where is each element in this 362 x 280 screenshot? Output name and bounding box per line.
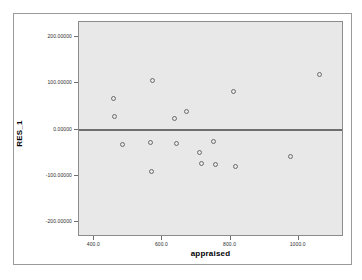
x-axis-tick-label: 600.0 (155, 241, 168, 247)
data-point[interactable] (231, 89, 236, 94)
y-axis: 200.00000100.000000.00000-100.00000-200.… (14, 21, 78, 236)
data-point[interactable] (317, 72, 322, 77)
x-axis-title: appraised (78, 249, 343, 258)
data-point[interactable] (120, 142, 125, 147)
x-axis-tick (230, 236, 231, 240)
data-point[interactable] (199, 161, 204, 166)
y-axis-tick-label: -100.00000 (46, 172, 72, 178)
data-point[interactable] (197, 150, 202, 155)
data-point[interactable] (288, 154, 293, 159)
plot-area[interactable] (78, 21, 343, 236)
zero-reference-line (79, 129, 342, 131)
y-axis-tick-label: -200.00000 (46, 218, 72, 224)
x-axis-tick-label: 800.0 (223, 241, 236, 247)
data-point[interactable] (211, 139, 216, 144)
x-axis-tick-label: 400.0 (87, 241, 100, 247)
data-point[interactable] (149, 169, 154, 174)
y-axis-tick-label: 100.00000 (47, 79, 72, 85)
spss-output-viewer: RES_1 200.00000100.000000.00000-100.0000… (0, 0, 362, 280)
data-point[interactable] (233, 164, 238, 169)
data-point[interactable] (213, 162, 218, 167)
x-axis-tick (298, 236, 299, 240)
data-point[interactable] (111, 96, 116, 101)
data-point[interactable] (148, 140, 153, 145)
x-axis-tick-label: 1000.0 (290, 241, 306, 247)
data-point[interactable] (172, 116, 177, 121)
x-axis-tick (93, 236, 94, 240)
output-panel: RES_1 200.00000100.000000.00000-100.0000… (13, 13, 352, 265)
data-point[interactable] (184, 109, 189, 114)
data-point[interactable] (150, 78, 155, 83)
data-point[interactable] (174, 141, 179, 146)
y-axis-tick-label: 200.00000 (47, 33, 72, 39)
scatter-chart[interactable]: RES_1 200.00000100.000000.00000-100.0000… (14, 14, 353, 266)
y-axis-tick-label: 0.00000 (53, 126, 72, 132)
x-axis-tick (161, 236, 162, 240)
data-point[interactable] (112, 114, 117, 119)
